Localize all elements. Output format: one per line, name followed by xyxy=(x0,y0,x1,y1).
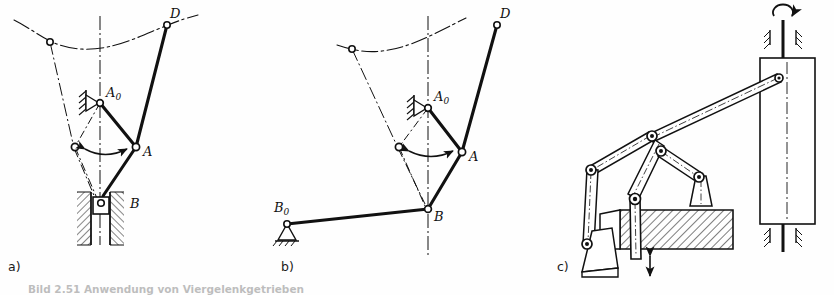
panel-b: A0 A B B0 D xyxy=(273,6,511,256)
construction-ray-b-left xyxy=(352,49,398,148)
panel-label-a: a) xyxy=(8,259,21,274)
link-b0-b xyxy=(287,209,428,224)
joint-b0-b xyxy=(284,221,290,227)
figure-caption-strip: Bild 2.51 Anwendung von Viergelenkgetrie… xyxy=(0,283,834,295)
label-d-a: D xyxy=(169,6,181,21)
joint-b-a xyxy=(98,200,105,207)
coupler-curve-b xyxy=(337,18,466,52)
label-b-b: B xyxy=(433,209,444,224)
label-b0-b: B0 xyxy=(273,200,290,217)
label-b-a: B xyxy=(129,196,140,211)
joint-d-alt-b xyxy=(349,46,355,52)
joint-d-a xyxy=(164,22,170,28)
panel-c xyxy=(582,5,815,277)
joint-a-a xyxy=(132,143,139,150)
figure-container: A0 A B D xyxy=(0,0,834,295)
joint-a-alt-b xyxy=(395,143,402,150)
panel-label-c: c) xyxy=(557,259,569,274)
link-a-b-b xyxy=(428,152,462,209)
rotation-arrow-icon xyxy=(773,5,793,16)
joint-d-b xyxy=(494,22,500,28)
link-a0-a xyxy=(100,103,136,147)
driven-shaft-assembly xyxy=(760,5,815,252)
label-a-a: A xyxy=(142,144,152,159)
link-a-d xyxy=(136,25,167,147)
link-a-d-b xyxy=(462,25,497,152)
label-a0-b: A0 xyxy=(433,89,449,106)
joint-d-alt-a xyxy=(47,39,53,45)
label-a-b: A xyxy=(468,149,478,164)
joint-a0-a xyxy=(97,100,104,107)
figure-caption: Bild 2.51 Anwendung von Viergelenkgetrie… xyxy=(28,283,304,295)
swing-arrow-a xyxy=(85,149,127,155)
panel-label-b: b) xyxy=(281,259,294,274)
panel-a: A0 A B D xyxy=(14,6,198,245)
construction-ray-a-left xyxy=(50,42,74,148)
joint-a-b xyxy=(458,148,465,155)
kinematic-diagram-svg: A0 A B D xyxy=(0,0,834,295)
label-d-b: D xyxy=(499,6,511,21)
swing-arrow-b xyxy=(409,151,453,157)
link-a0-a-b xyxy=(428,108,462,152)
joint-a-alt-a xyxy=(71,143,78,150)
die-block xyxy=(600,210,733,249)
label-a0-a: A0 xyxy=(105,85,121,102)
joint-a0-b xyxy=(425,105,432,112)
joint-b-b xyxy=(425,206,432,213)
